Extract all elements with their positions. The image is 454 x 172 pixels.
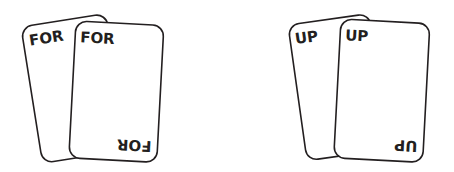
up-card-group: UP UP UP <box>288 14 430 163</box>
up-front-card-top-label: UP <box>345 26 369 45</box>
for-front-card: FOR FOR <box>69 21 164 162</box>
for-front-card-top-label: FOR <box>80 28 116 48</box>
up-back-card-label: UP <box>294 27 319 48</box>
up-front-card-bottom-label: UP <box>394 136 418 155</box>
up-front-card: UP UP <box>334 19 430 162</box>
for-front-card-bottom-label: FOR <box>116 135 152 155</box>
card-diagram: FOR FOR FOR UP UP UP <box>0 0 454 172</box>
for-card-group: FOR FOR FOR <box>21 14 164 164</box>
